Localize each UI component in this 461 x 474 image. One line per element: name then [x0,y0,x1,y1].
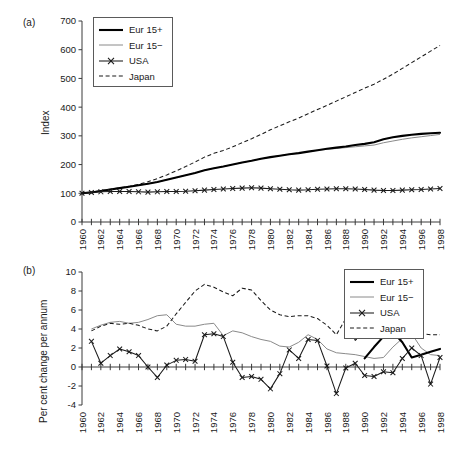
legend-swatch-eur15plus-icon [349,276,375,288]
legend-item-eur15minus: Eur 15− [349,290,417,306]
legend-label-usa: USA [380,308,400,318]
svg-text:1984: 1984 [303,229,314,250]
legend-item-eur15plus: Eur 15+ [349,274,417,290]
svg-text:1988: 1988 [340,412,351,433]
legend-label-eur15plus: Eur 15+ [380,277,414,287]
legend-swatch-eur15minus-icon [98,39,124,51]
svg-text:1990: 1990 [359,412,370,433]
svg-text:4: 4 [71,323,76,334]
svg-text:1976: 1976 [227,412,238,433]
legend-item-eur15plus: Eur 15+ [98,22,166,38]
svg-text:2: 2 [71,342,76,353]
legend-item-usa: USA [349,305,417,321]
legend-swatch-eur15minus-icon [349,291,375,303]
legend-item-japan: Japan [98,69,166,85]
svg-text:1984: 1984 [303,412,314,433]
svg-text:1974: 1974 [208,229,219,250]
svg-text:8: 8 [71,285,76,296]
svg-text:1968: 1968 [152,229,163,250]
svg-text:400: 400 [60,102,76,113]
svg-text:1980: 1980 [265,412,276,433]
svg-text:1962: 1962 [95,229,106,250]
legend-swatch-japan-icon [349,322,375,334]
svg-text:1960: 1960 [77,412,88,433]
svg-text:1966: 1966 [133,229,144,250]
svg-text:1974: 1974 [208,412,219,433]
legend-swatch-usa-icon [98,55,124,67]
legend-label-usa: USA [129,56,149,66]
legend-label-eur15minus: Eur 15− [129,41,163,51]
legend-swatch-eur15plus-icon [98,24,124,36]
svg-text:1982: 1982 [284,412,295,433]
panel-b-legend: Eur 15+ Eur 15− USA [344,269,424,339]
svg-text:1968: 1968 [152,412,163,433]
figure-container: (a) Index 010020030040050060070019601962… [0,0,461,474]
svg-text:1970: 1970 [171,229,182,250]
svg-text:1996: 1996 [416,229,427,250]
panel-a-plot: 0100200300400500600700196019621964196619… [0,0,461,258]
legend-item-japan: Japan [349,321,417,337]
svg-text:-4: -4 [68,399,76,410]
svg-text:500: 500 [60,73,76,84]
svg-text:1980: 1980 [265,229,276,250]
svg-text:1990: 1990 [359,229,370,250]
svg-text:1978: 1978 [246,412,257,433]
svg-text:600: 600 [60,44,76,55]
chart-panel-a: (a) Index 010020030040050060070019601962… [0,0,461,258]
svg-text:1986: 1986 [322,229,333,250]
svg-text:1996: 1996 [416,412,427,433]
legend-swatch-usa-icon [349,307,375,319]
svg-text:0: 0 [71,216,76,227]
svg-text:1986: 1986 [322,412,333,433]
svg-text:1970: 1970 [171,412,182,433]
svg-text:1982: 1982 [284,229,295,250]
svg-text:6: 6 [71,304,76,315]
legend-label-eur15minus: Eur 15− [380,293,414,303]
svg-text:1998: 1998 [435,412,446,433]
legend-item-usa: USA [98,53,166,69]
svg-text:200: 200 [60,159,76,170]
legend-label-japan: Japan [129,72,155,82]
svg-text:1976: 1976 [227,229,238,250]
svg-text:1972: 1972 [190,229,201,250]
svg-text:1960: 1960 [77,229,88,250]
svg-text:1978: 1978 [246,229,257,250]
svg-text:700: 700 [60,15,76,26]
legend-label-eur15plus: Eur 15+ [129,25,163,35]
svg-text:1992: 1992 [378,412,389,433]
svg-text:1994: 1994 [397,412,408,433]
svg-text:100: 100 [60,188,76,199]
svg-text:-2: -2 [68,380,76,391]
legend-item-eur15minus: Eur 15− [98,38,166,54]
svg-text:1972: 1972 [190,412,201,433]
legend-label-japan: Japan [380,324,406,334]
svg-text:1962: 1962 [95,412,106,433]
svg-text:1988: 1988 [340,229,351,250]
svg-text:1998: 1998 [435,229,446,250]
legend-swatch-japan-icon [98,70,124,82]
svg-text:0: 0 [71,361,76,372]
panel-a-legend: Eur 15+ Eur 15− USA [93,17,173,87]
svg-text:1964: 1964 [114,229,125,250]
svg-text:1994: 1994 [397,229,408,250]
svg-text:1966: 1966 [133,412,144,433]
svg-text:1992: 1992 [378,229,389,250]
svg-text:10: 10 [65,266,76,277]
chart-panel-b: (b) Per cent change per annum -4-2024681… [0,255,461,474]
svg-text:1964: 1964 [114,412,125,433]
svg-text:300: 300 [60,130,76,141]
